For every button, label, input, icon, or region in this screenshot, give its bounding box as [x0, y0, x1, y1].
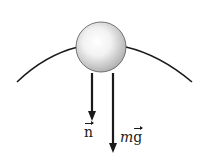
- free-body-diagram: [0, 0, 207, 159]
- normal-force-arrow: [88, 73, 96, 121]
- curved-surface-left: [17, 47, 78, 82]
- ball: [76, 22, 126, 72]
- weight-force-arrow: [109, 73, 117, 153]
- curved-surface-right: [126, 47, 192, 82]
- normal-force-label: n: [84, 125, 93, 139]
- weight-force-label: mg: [120, 130, 142, 144]
